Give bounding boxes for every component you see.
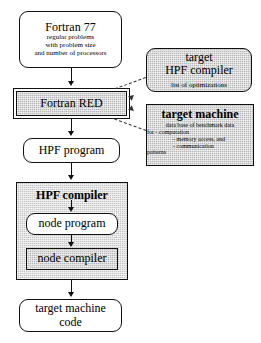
node-fortran-77-title: Fortran 77: [45, 21, 95, 34]
node-target-machine-detail-4: - communication: [147, 143, 253, 150]
node-target-machine-detail-1: data base of benchmark data: [147, 122, 253, 129]
node-target-machine-detail-5: patterns: [147, 149, 253, 156]
node-target-machine-code: target machine code: [19, 299, 122, 332]
node-target-machine-detail-2: for - computation: [147, 129, 253, 136]
edge-targethpf-to-fortranred-arrow: [127, 93, 134, 100]
edge-hpfcompiler-to-targetcode-arrow: [68, 292, 74, 297]
node-fortran-red: Fortran RED: [16, 91, 127, 116]
node-target-machine-code-line-2: code: [35, 316, 106, 329]
edge-nodeprogram-to-nodecompiler-arrow: [68, 242, 74, 247]
node-fortran-77-detail-3: and number of processors: [34, 50, 106, 58]
node-fortran-77: Fortran 77 regular problems with problem…: [19, 11, 122, 68]
edge-targetmachine-to-fortranred-dashed: [114, 118, 146, 131]
node-fortran-77-details: regular problems with problem size and n…: [34, 34, 106, 57]
node-target-hpf-compiler: target HPF compiler list of optimization…: [146, 48, 252, 92]
node-hpf-program-title: HPF program: [39, 144, 105, 157]
node-target-machine-code-label: target machine code: [35, 302, 106, 329]
node-target-machine-detail-3: - memory access, and: [147, 136, 253, 143]
node-fortran-red-title: Fortran RED: [40, 97, 102, 110]
node-node-compiler-title: node compiler: [38, 252, 107, 265]
node-node-program-title: node program: [39, 217, 106, 230]
node-hpf-compiler-title: HPF compiler: [36, 189, 108, 202]
node-target-machine: target machine data base of benchmark da…: [146, 104, 254, 166]
node-target-hpf-compiler-line-2: HPF compiler: [165, 64, 233, 77]
edge-fortranred-to-hpfprogram-arrow: [68, 131, 74, 136]
node-target-machine-details: data base of benchmark data for - comput…: [145, 121, 255, 156]
node-target-hpf-compiler-subtitle: list of optimizations: [171, 82, 227, 90]
node-target-hpf-compiler-line-1: target: [165, 51, 233, 64]
node-target-machine-title: target machine: [162, 108, 239, 121]
edge-targetmachine-to-fortranred-arrow: [127, 105, 134, 112]
node-target-hpf-compiler-title: target HPF compiler: [165, 51, 233, 78]
node-target-machine-code-line-1: target machine: [35, 302, 106, 315]
node-node-compiler: node compiler: [26, 248, 118, 270]
edge-hpfprogram-to-hpfcompiler-arrow: [68, 175, 74, 180]
diagram-canvas: Fortran 77 regular problems with problem…: [0, 0, 261, 343]
node-hpf-program: HPF program: [23, 138, 120, 163]
node-node-program: node program: [26, 213, 118, 235]
edge-hpfcompiler-to-nodeprogram-arrow: [68, 207, 74, 212]
edge-fortran77-to-fortranred-arrow: [68, 81, 74, 86]
edge-targethpf-to-fortranred-dashed: [115, 77, 146, 89]
